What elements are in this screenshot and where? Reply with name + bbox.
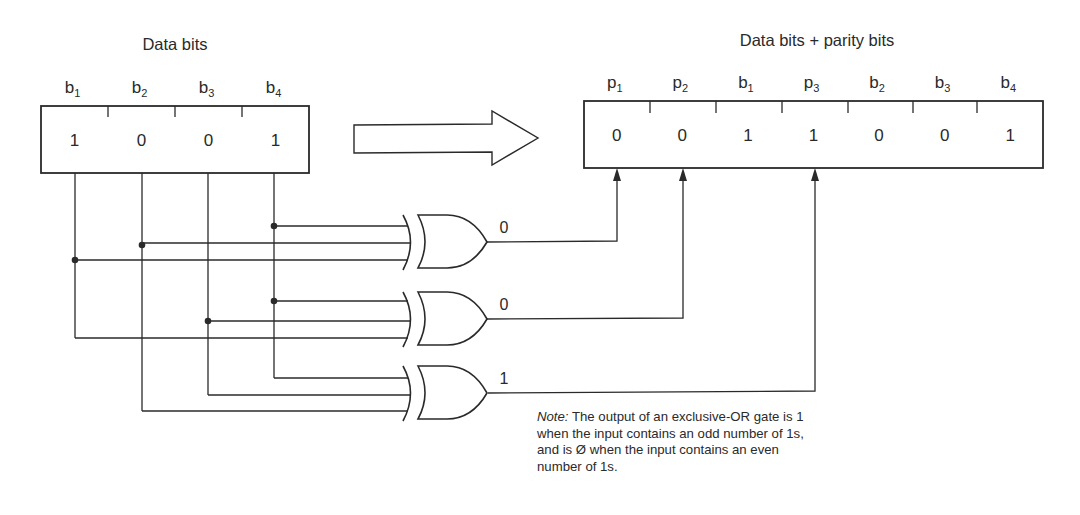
- bit-label: b2: [132, 78, 148, 99]
- bit-label-name: b: [199, 78, 208, 97]
- arrowhead-icon: [811, 168, 819, 181]
- bit-label-subscript: 3: [208, 87, 214, 99]
- junction-dot: [72, 257, 79, 264]
- junction-dot: [139, 242, 146, 249]
- bit-value: 0: [612, 126, 621, 145]
- bit-label-subscript: 4: [1010, 82, 1016, 94]
- bit-label-subscript: 3: [944, 82, 950, 94]
- bit-label-name: p: [673, 73, 682, 92]
- bit-label-subscript: 1: [74, 87, 80, 99]
- bit-value: 1: [271, 131, 280, 150]
- bit-value: 1: [70, 131, 79, 150]
- bit-label: b4: [266, 78, 282, 99]
- gate-output-value: 0: [500, 296, 509, 313]
- arrowhead-icon: [613, 168, 621, 181]
- bit-label: p2: [673, 73, 689, 94]
- data-parity-register: p1p2b1p3b2b3b4 0011001: [584, 73, 1043, 168]
- bit-label-subscript: 1: [748, 82, 754, 94]
- output-wiring: [487, 168, 819, 393]
- xor-gate-body: [418, 292, 487, 345]
- data-bits-title: Data bits: [142, 35, 207, 53]
- junction-dot: [205, 318, 212, 325]
- bit-value: 1: [1005, 126, 1014, 145]
- bit-label-subscript: 4: [275, 87, 281, 99]
- bit-value: 0: [137, 131, 146, 150]
- bit-label: b2: [869, 73, 885, 94]
- data-bits-register: b1b2b3b4 1001: [41, 78, 309, 173]
- gate-output-value: 0: [500, 219, 509, 236]
- xor-note: Note: The output of an exclusive-OR gate…: [537, 409, 817, 475]
- bit-label-name: b: [738, 73, 747, 92]
- bit-label-name: p: [607, 73, 616, 92]
- bit-label-name: b: [65, 78, 74, 97]
- arrowhead-icon: [679, 168, 687, 181]
- junction-dot: [271, 298, 278, 305]
- bit-label-name: b: [266, 78, 275, 97]
- note-label: Note:: [537, 409, 569, 424]
- bit-label: p3: [804, 73, 820, 94]
- note-text: The output of an exclusive-OR gate is 1 …: [537, 409, 804, 474]
- bit-label: b3: [199, 78, 215, 99]
- bit-label-name: b: [1000, 73, 1009, 92]
- bit-value: 0: [678, 126, 687, 145]
- right-arrow-icon: [354, 111, 538, 165]
- xor-input-curve: [403, 292, 411, 347]
- junction-dot: [271, 223, 278, 230]
- bit-label-subscript: 1: [616, 82, 622, 94]
- bit-label-subscript: 2: [879, 82, 885, 94]
- bit-label: b1: [65, 78, 81, 99]
- bit-label-name: b: [935, 73, 944, 92]
- bit-label-subscript: 3: [813, 82, 819, 94]
- xor-input-curve: [403, 366, 411, 421]
- bit-value: 0: [204, 131, 213, 150]
- bit-label-subscript: 2: [682, 82, 688, 94]
- bit-label: b1: [738, 73, 754, 94]
- bit-value: 0: [874, 126, 883, 145]
- bit-label: b3: [935, 73, 951, 94]
- bit-value: 1: [743, 126, 752, 145]
- bit-value: 1: [809, 126, 818, 145]
- bit-label-name: b: [869, 73, 878, 92]
- gate-output-value: 1: [500, 370, 509, 387]
- bit-value: 0: [940, 126, 949, 145]
- xor-gate-body: [418, 366, 487, 419]
- bit-label: p1: [607, 73, 623, 94]
- bit-label-name: p: [804, 73, 813, 92]
- bit-label: b4: [1000, 73, 1016, 94]
- xor-gate-body: [418, 215, 487, 268]
- bit-label-name: b: [132, 78, 141, 97]
- bit-label-subscript: 2: [141, 87, 147, 99]
- data-parity-bits-title: Data bits + parity bits: [740, 31, 895, 49]
- input-wiring: [72, 173, 410, 411]
